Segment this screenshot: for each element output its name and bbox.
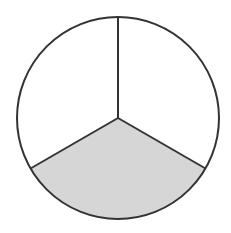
fraction-diagram	[0, 0, 231, 233]
shaded-sector	[31, 118, 206, 219]
fraction-circle-svg	[0, 0, 231, 233]
